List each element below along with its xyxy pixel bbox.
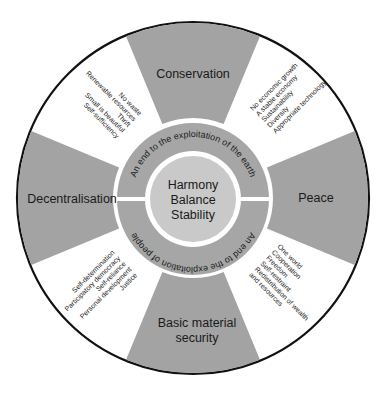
center-line-1: Harmony xyxy=(168,178,219,192)
wedge-label-conservation: Conservation xyxy=(156,67,230,81)
center-line-3: Stability xyxy=(171,208,216,222)
wedge-label-basic-material-line-2: security xyxy=(175,331,219,345)
center-line-2: Balance xyxy=(170,193,215,207)
wedge-label-basic-material-line-1: Basic material xyxy=(158,316,237,330)
harmony-wheel-diagram: An end to the exploitation of the earth … xyxy=(0,0,385,397)
wedge-label-decentralisation: Decentralisation xyxy=(27,192,117,206)
wedge-label-peace: Peace xyxy=(298,191,333,205)
